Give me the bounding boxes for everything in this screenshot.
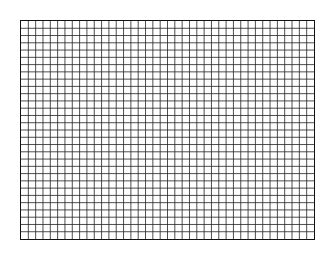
grid-lines bbox=[21, 21, 314, 239]
grid-diagram bbox=[20, 20, 315, 240]
